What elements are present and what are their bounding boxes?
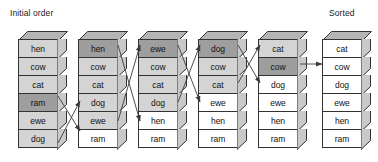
cell: ram bbox=[198, 129, 238, 148]
cell-label: dog bbox=[91, 98, 105, 108]
cell-label: ewe bbox=[150, 44, 166, 54]
cell-label: cow bbox=[30, 62, 45, 72]
cell: cat bbox=[138, 75, 178, 94]
column-1: hencowcatdogeweram bbox=[78, 31, 118, 148]
cell: ewe bbox=[198, 93, 238, 112]
cell-side-face bbox=[361, 111, 370, 130]
cell-side-face bbox=[237, 57, 246, 76]
cell-side-face bbox=[361, 57, 370, 76]
cell-label: dog bbox=[151, 98, 165, 108]
cell-label: ram bbox=[271, 134, 286, 144]
cell: ewe bbox=[258, 93, 298, 112]
swap-ewe-down bbox=[178, 45, 200, 102]
cell-label: ewe bbox=[30, 116, 46, 126]
cell-label: ewe bbox=[210, 98, 226, 108]
sorted-label: Sorted bbox=[329, 8, 355, 18]
cell-side-face bbox=[297, 111, 306, 130]
cell: cat bbox=[258, 39, 298, 58]
cell: ram bbox=[258, 129, 298, 148]
cell-side-face bbox=[361, 39, 370, 58]
cell-side-face bbox=[117, 129, 126, 148]
cell-side-face bbox=[177, 93, 186, 112]
cell-label: ram bbox=[335, 134, 350, 144]
cell-side-face bbox=[237, 93, 246, 112]
swap-dog-up bbox=[58, 101, 80, 143]
cell: cow bbox=[258, 57, 298, 76]
cell: cat bbox=[18, 75, 58, 94]
cell: hen bbox=[138, 111, 178, 130]
cell-side-face bbox=[57, 57, 66, 76]
cell-side-face bbox=[177, 111, 186, 130]
cell-label: cow bbox=[334, 62, 349, 72]
cell-side-face bbox=[237, 39, 246, 58]
cell-label: ram bbox=[211, 134, 226, 144]
selection-sort-diagram: Initial order Sorted hencowcatramewedogh… bbox=[0, 0, 378, 162]
column-3: dogcowcatewehenram bbox=[198, 31, 238, 148]
cell-side-face bbox=[177, 39, 186, 58]
cell-side-face bbox=[297, 75, 306, 94]
cell: cow bbox=[138, 57, 178, 76]
cell: ram bbox=[138, 129, 178, 148]
cell: dog bbox=[322, 75, 362, 94]
swap-dog-up-2 bbox=[178, 45, 200, 102]
cell-label: dog bbox=[31, 134, 45, 144]
cell: dog bbox=[198, 39, 238, 58]
cell-label: hen bbox=[91, 44, 105, 54]
cell-label: hen bbox=[31, 44, 45, 54]
cell-label: cow bbox=[150, 62, 165, 72]
cell: dog bbox=[78, 93, 118, 112]
cell: dog bbox=[18, 129, 58, 148]
cell-label: hen bbox=[271, 116, 285, 126]
cell-label: ewe bbox=[270, 98, 286, 108]
column-4: catcowdogewehenram bbox=[258, 31, 298, 148]
swap-dog-down bbox=[238, 45, 260, 83]
cell: hen bbox=[322, 111, 362, 130]
cell-label: hen bbox=[151, 116, 165, 126]
cell-label: ewe bbox=[334, 98, 350, 108]
cell-label: cat bbox=[152, 80, 163, 90]
cell-side-face bbox=[361, 129, 370, 148]
cell: cow bbox=[18, 57, 58, 76]
cell: dog bbox=[258, 75, 298, 94]
cell-side-face bbox=[177, 57, 186, 76]
cell: cat bbox=[78, 75, 118, 94]
cell-side-face bbox=[57, 93, 66, 112]
cell-label: cow bbox=[210, 62, 225, 72]
cell-side-face bbox=[117, 93, 126, 112]
cell-side-face bbox=[297, 93, 306, 112]
cell-label: dog bbox=[211, 44, 225, 54]
cell-side-face bbox=[297, 39, 306, 58]
cell: hen bbox=[18, 39, 58, 58]
column-2: ewecowcatdoghenram bbox=[138, 31, 178, 148]
cell-side-face bbox=[177, 129, 186, 148]
cell-label: hen bbox=[335, 116, 349, 126]
cell-side-face bbox=[117, 39, 126, 58]
cell-side-face bbox=[297, 129, 306, 148]
cell: ewe bbox=[18, 111, 58, 130]
cell-label: ram bbox=[91, 134, 106, 144]
swap-ram-down bbox=[58, 96, 80, 131]
cell: ram bbox=[322, 129, 362, 148]
cell-label: cat bbox=[92, 80, 103, 90]
initial-order-label: Initial order bbox=[10, 8, 53, 18]
cell-side-face bbox=[117, 57, 126, 76]
cell: cat bbox=[322, 39, 362, 58]
cell: ewe bbox=[138, 39, 178, 58]
cell-label: dog bbox=[271, 80, 285, 90]
cell-label: cat bbox=[212, 80, 223, 90]
cell-label: cow bbox=[270, 62, 285, 72]
cell-side-face bbox=[57, 111, 66, 130]
cell: cow bbox=[322, 57, 362, 76]
cell-side-face bbox=[297, 57, 306, 76]
cell-label: cat bbox=[336, 44, 347, 54]
cell-label: ram bbox=[31, 98, 46, 108]
cell-label: dog bbox=[335, 80, 349, 90]
cell: ram bbox=[78, 129, 118, 148]
cell-label: ram bbox=[151, 134, 166, 144]
column-5: catcowdogewehenram bbox=[322, 31, 362, 148]
cell-side-face bbox=[361, 93, 370, 112]
cell-label: cat bbox=[32, 80, 43, 90]
cell: dog bbox=[138, 93, 178, 112]
cell: ewe bbox=[322, 93, 362, 112]
cell-label: ewe bbox=[90, 116, 106, 126]
